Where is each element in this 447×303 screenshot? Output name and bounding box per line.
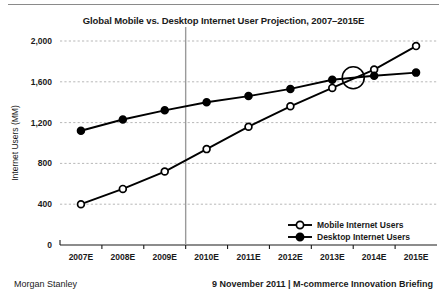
y-axis-tick-label: 800 [38,158,52,168]
data-point-marker [329,85,336,92]
x-axis-tick-label: 2007E [69,252,94,262]
x-axis-tick-label: 2013E [320,252,345,262]
x-axis-tick-marks [102,245,395,249]
y-axis-tick-label: 400 [38,199,52,209]
legend-marker-icon [296,221,303,228]
data-point-marker [371,72,378,79]
y-axis-tick-labels: 04008001,2001,6002,000 [31,36,53,250]
legend-marker-icon [296,233,303,240]
chart-legend: Mobile Internet UsersDesktop Internet Us… [288,220,410,242]
data-point-marker [245,123,252,130]
x-axis-tick-labels: 2007E2008E2009E2010E2011E2012E2013E2014E… [69,252,429,262]
data-point-marker [203,99,210,106]
slide-canvas: Global Mobile vs. Desktop Internet User … [0,0,447,303]
data-point-marker [161,168,168,175]
data-point-marker [413,43,420,50]
data-point-marker [119,186,126,193]
data-point-marker [78,201,85,208]
x-axis-tick-label: 2014E [362,252,387,262]
data-point-marker [203,146,210,153]
series-line [81,73,416,131]
x-axis-tick-label: 2010E [194,252,219,262]
y-axis-tick-label: 1,200 [31,118,53,128]
data-point-marker [329,76,336,83]
x-axis-tick-label: 2009E [152,252,177,262]
data-point-marker [245,93,252,100]
y-axis-tick-label: 1,600 [31,77,53,87]
x-axis-tick-label: 2011E [236,252,260,262]
y-axis-tick-label: 0 [47,240,52,250]
legend-label: Desktop Internet Users [317,232,410,242]
y-axis-tick-label: 2,000 [31,36,53,46]
data-point-marker [78,127,85,134]
data-point-marker [161,107,168,114]
y-axis-title: Internet Users (MM) [10,105,20,181]
data-point-marker [413,69,420,76]
data-point-marker [287,86,294,93]
data-point-marker [287,103,294,110]
x-axis-tick-label: 2015E [404,252,429,262]
legend-label: Mobile Internet Users [317,220,404,230]
footer-source: Morgan Stanley [14,279,77,289]
x-axis-tick-label: 2008E [111,252,136,262]
series-markers-group [78,43,420,208]
footer-briefing: 9 November 2011 | M-commerce Innovation … [212,279,433,289]
data-point-marker [119,116,126,123]
x-axis-tick-label: 2012E [278,252,303,262]
line-chart: 04008001,2001,6002,000 2007E2008E2009E20… [0,0,447,303]
